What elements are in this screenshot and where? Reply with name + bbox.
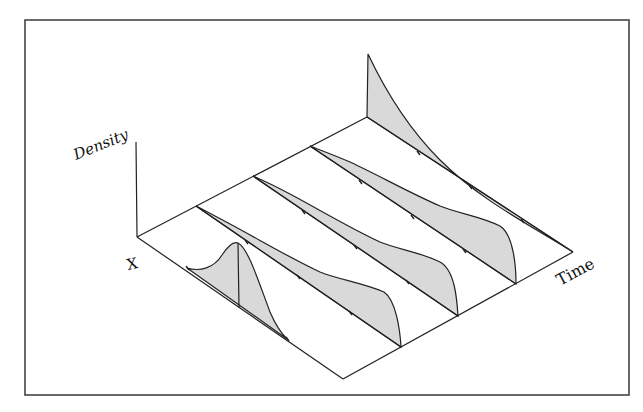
figure-frame [25,20,629,395]
x-axis-label: X [125,254,140,274]
density-axis-label: Density [70,125,132,164]
density-evolution-diagram: Density X Time [0,0,643,412]
density-axis [136,142,137,237]
